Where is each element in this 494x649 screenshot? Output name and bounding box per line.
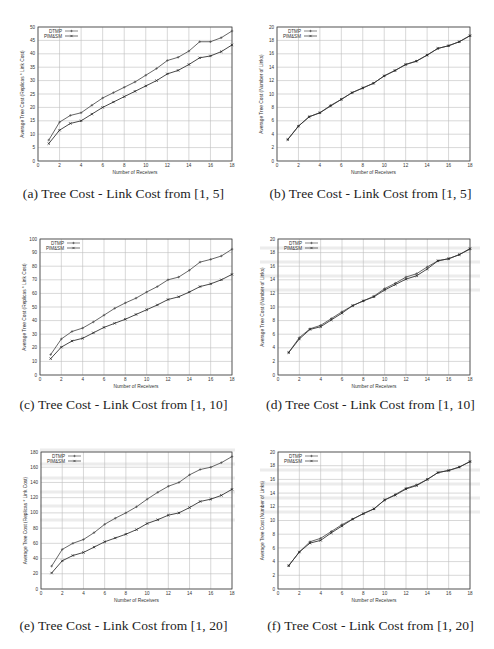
svg-text:8: 8	[272, 532, 275, 537]
svg-text:20: 20	[270, 450, 276, 455]
svg-text:12: 12	[403, 591, 409, 596]
series-pimsm	[287, 460, 471, 567]
svg-text:2: 2	[298, 591, 301, 596]
svg-text:0: 0	[277, 591, 280, 596]
chart-f: 02468101214161802468101214161820Number o…	[0, 0, 494, 620]
svg-text:PIM&SM: PIM&SM	[284, 459, 302, 464]
chart-panel-f: 02468101214161802468101214161820Number o…	[0, 0, 494, 649]
svg-text:6: 6	[272, 546, 275, 551]
svg-text:0: 0	[272, 587, 275, 592]
svg-text:4: 4	[319, 591, 322, 596]
svg-text:10: 10	[382, 591, 388, 596]
svg-text:14: 14	[425, 591, 431, 596]
svg-text:14: 14	[270, 491, 276, 496]
grid	[278, 452, 470, 589]
svg-text:8: 8	[362, 591, 365, 596]
svg-text:18: 18	[270, 463, 276, 468]
svg-text:6: 6	[341, 591, 344, 596]
svg-text:10: 10	[270, 518, 276, 523]
svg-text:2: 2	[272, 573, 275, 578]
svg-text:16: 16	[270, 477, 276, 482]
y-axis-label: Average Tree Cost (Number of Links)	[260, 480, 265, 560]
legend: DTMPPIM&SM	[284, 454, 318, 464]
x-axis-label: Number of Receivers	[351, 598, 397, 603]
svg-text:18: 18	[467, 591, 473, 596]
caption-f: (f) Tree Cost - Link Cost from [1, 20]	[247, 618, 494, 634]
svg-text:4: 4	[272, 559, 275, 564]
series-dtmp	[287, 460, 471, 567]
svg-text:12: 12	[270, 504, 276, 509]
svg-text:16: 16	[446, 591, 452, 596]
